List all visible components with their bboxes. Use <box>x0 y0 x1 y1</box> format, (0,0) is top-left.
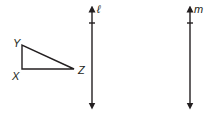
geometry-diagram: Y X Z ℓ m <box>0 0 217 114</box>
vertex-label-x: X <box>11 70 20 82</box>
line-label-m: m <box>194 3 203 15</box>
vertex-label-y: Y <box>13 37 21 49</box>
triangle-xyz: Y X Z <box>11 37 86 82</box>
line-l: ℓ <box>89 3 101 106</box>
line-label-l: ℓ <box>96 3 101 15</box>
line-m: m <box>187 3 203 106</box>
triangle-shape <box>22 45 74 69</box>
vertex-label-z: Z <box>77 64 86 76</box>
